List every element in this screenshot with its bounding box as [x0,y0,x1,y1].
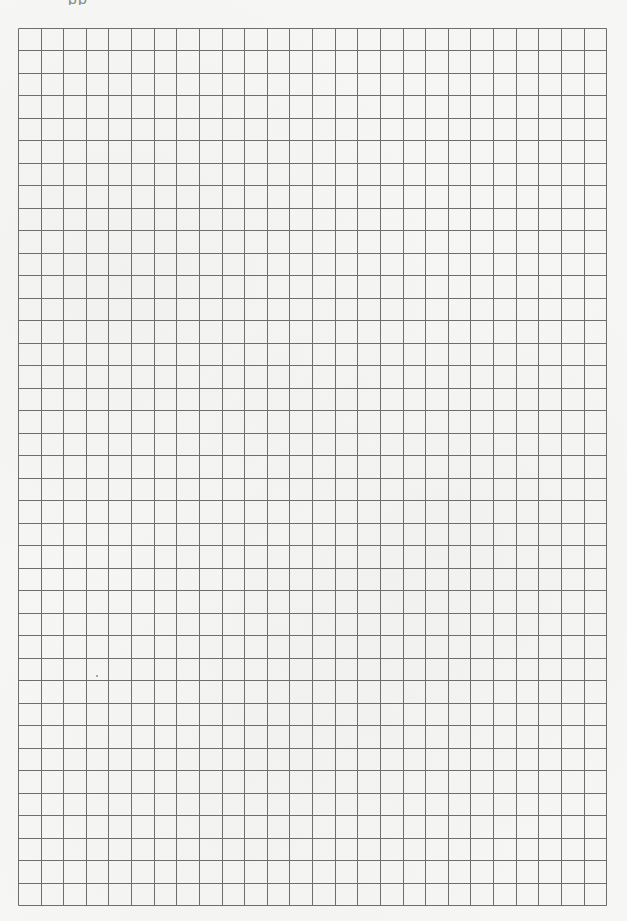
scan-dot [96,675,98,677]
graph-paper-grid [19,29,607,906]
grid-lines [18,28,609,908]
clipped-header-text: pp [68,0,88,5]
